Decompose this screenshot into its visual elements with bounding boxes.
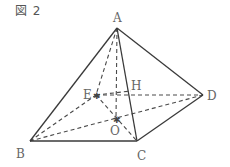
label-C: C xyxy=(137,149,146,163)
pyramid-diagram: ✱ ✱ A B C D E O H xyxy=(0,0,230,167)
label-E: E xyxy=(83,88,92,102)
label-B: B xyxy=(16,147,25,161)
segment-EH xyxy=(96,91,131,95)
label-H: H xyxy=(131,79,141,93)
label-O: O xyxy=(110,124,120,138)
label-A: A xyxy=(112,11,122,25)
edge-AE xyxy=(96,28,117,95)
edge-AB xyxy=(30,28,117,141)
edge-AD xyxy=(117,28,203,95)
point-marker-E: ✱ xyxy=(93,91,101,101)
edge-CD xyxy=(137,95,203,141)
label-D: D xyxy=(207,89,217,103)
edge-AO xyxy=(116,28,117,119)
